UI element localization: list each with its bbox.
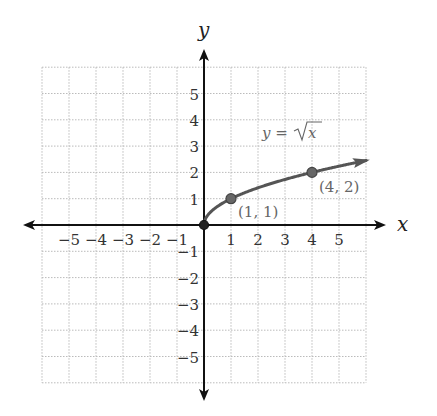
x-tick-label: 4 bbox=[307, 231, 317, 249]
function-label-text: y = bbox=[261, 124, 288, 142]
point-label-1-1: (1, 1) bbox=[238, 203, 278, 221]
graph-canvas: −5−4−3−2−11234554321−1−2−3−4−5 y x y = x… bbox=[0, 0, 437, 416]
y-tick-label: 5 bbox=[189, 86, 199, 104]
y-tick-label: 3 bbox=[189, 138, 199, 156]
x-tick-label: 1 bbox=[226, 231, 236, 249]
data-point bbox=[226, 194, 236, 204]
x-tick-label: −2 bbox=[139, 231, 161, 249]
y-tick-label: −3 bbox=[177, 296, 199, 314]
y-tick-label: −4 bbox=[177, 322, 199, 340]
x-tick-label: −4 bbox=[85, 231, 107, 249]
y-tick-label: 4 bbox=[189, 112, 199, 130]
function-label: y = x bbox=[261, 122, 322, 142]
y-tick-label: 2 bbox=[189, 164, 199, 182]
point-label-4-2: (4, 2) bbox=[319, 178, 359, 196]
y-tick-label: −5 bbox=[177, 349, 199, 367]
data-point bbox=[307, 167, 317, 177]
x-axis-label: x bbox=[397, 212, 408, 236]
y-tick-label: 1 bbox=[189, 191, 199, 209]
y-axis-label: y bbox=[197, 18, 210, 42]
data-point bbox=[200, 221, 209, 230]
y-tick-label: −2 bbox=[177, 270, 199, 288]
function-label-radicand: x bbox=[308, 124, 317, 142]
y-tick-label: −1 bbox=[177, 243, 199, 261]
x-tick-label: −3 bbox=[112, 231, 134, 249]
x-tick-label: 5 bbox=[334, 231, 344, 249]
x-tick-label: 2 bbox=[253, 231, 263, 249]
x-tick-label: −5 bbox=[58, 231, 80, 249]
x-tick-label: 3 bbox=[280, 231, 290, 249]
